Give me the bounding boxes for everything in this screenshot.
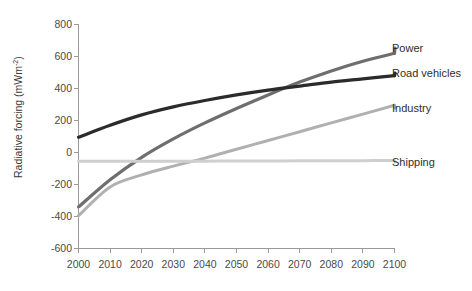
y-axis-tick-labels: 800 600 400 200 0 -200 -400 -600 (51, 18, 72, 254)
svg-text:Radiative forcing (mWm-2): Radiative forcing (mWm-2) (12, 56, 24, 178)
x-tick-label: 2090 (351, 258, 375, 270)
y-tick-label: 800 (54, 18, 72, 30)
y-tick-label: 400 (54, 82, 72, 94)
x-tick-label: 2060 (256, 258, 280, 270)
chart-container: Radiative forcing (mWm-2) 800 600 400 20… (0, 0, 472, 291)
series-line-power (79, 53, 395, 207)
x-tick-label: 2000 (67, 258, 91, 270)
x-tick-label: 2030 (162, 258, 186, 270)
x-tick-label: 2070 (288, 258, 312, 270)
x-axis-tick-labels: 2000 2010 2020 2030 2040 2050 2060 2070 … (67, 258, 407, 270)
series-label-industry: Industry (392, 102, 432, 114)
y-axis-title: Radiative forcing (mWm-2) (12, 56, 24, 178)
series-labels: Power Road vehicles Industry Shipping (392, 42, 462, 168)
x-tick-label: 2020 (130, 258, 154, 270)
series-layer (79, 48, 396, 216)
y-axis-title-close: ) (12, 56, 24, 60)
x-tick-label: 2040 (193, 258, 217, 270)
y-axis-title-main: Radiative forcing (mWm (12, 66, 24, 178)
y-tick-label: -600 (51, 242, 72, 254)
x-tick-label: 2080 (320, 258, 344, 270)
y-tick-label: -200 (51, 178, 72, 190)
y-tick-label: 200 (54, 114, 72, 126)
x-tick-label: 2100 (383, 258, 407, 270)
x-tick-label: 2050 (225, 258, 249, 270)
series-line-road-vehicles (79, 76, 395, 138)
y-tick-label: 600 (54, 50, 72, 62)
series-label-power: Power (392, 42, 424, 54)
x-tick-label: 2010 (98, 258, 122, 270)
y-tick-label: 0 (66, 146, 72, 158)
series-label-shipping: Shipping (392, 156, 435, 168)
series-line-shipping (79, 161, 395, 162)
series-label-road-vehicles: Road vehicles (392, 67, 462, 79)
radiative-forcing-line-chart: Radiative forcing (mWm-2) 800 600 400 20… (0, 0, 472, 291)
y-tick-label: -400 (51, 210, 72, 222)
x-axis (79, 249, 396, 254)
